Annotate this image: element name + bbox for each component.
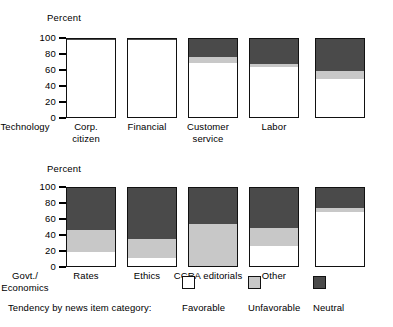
bottom-chart-segment-favorable (67, 252, 115, 266)
bottom-chart-bar (188, 187, 238, 267)
top-chart-ytick-label: 20 (45, 97, 56, 107)
bottom-chart-xlabel: Ethics (112, 270, 182, 282)
top-chart-ytick-label: 40 (45, 81, 56, 91)
top-chart-segment-unfavorable (250, 64, 298, 67)
bottom-chart-bar (66, 187, 116, 267)
bottom-chart-segment-unfavorable (189, 224, 237, 266)
bottom-chart-segment-favorable (250, 246, 298, 266)
bottom-chart-axis-title: Percent (47, 163, 81, 174)
top-chart-xlabel: Labor (239, 121, 309, 133)
bottom-chart-segment-neutral (189, 187, 237, 224)
top-chart-xlabel: Financial (112, 121, 182, 133)
bottom-chart-bars (66, 187, 386, 267)
bottom-chart-segment-unfavorable (250, 228, 298, 246)
top-chart-xlabel-line: Financial (112, 121, 182, 133)
bottom-chart-segment-unfavorable (67, 230, 115, 252)
bottom-chart-bar (315, 187, 365, 267)
bottom-chart-ytick-mark (59, 186, 66, 188)
bottom-chart-segment-unfavorable (316, 208, 364, 212)
top-chart-segment-unfavorable (316, 71, 364, 79)
legend-label-unfavorable: Unfavorable (248, 302, 300, 313)
top-chart-ytick-label: 80 (45, 49, 56, 59)
bottom-chart-segment-favorable (128, 258, 176, 266)
bottom-chart-ytick-label: 60 (45, 214, 56, 224)
top-chart-ytick-mark (59, 53, 66, 55)
bottom-chart-segment-neutral (316, 187, 364, 208)
unfavorable-swatch (248, 276, 261, 289)
top-chart-ytick-mark (59, 117, 66, 119)
top-chart-segment-unfavorable (189, 57, 237, 63)
top-chart-segment-neutral (316, 38, 364, 71)
bottom-stacked-bar-chart: Percent 020406080100 Govt./EconomicsRate… (0, 155, 393, 280)
bottom-chart-segment-neutral (67, 187, 115, 230)
top-chart-segment-favorable (128, 40, 176, 117)
bottom-chart-segment-unfavorable (128, 239, 176, 258)
bottom-chart-ytick-label: 80 (45, 198, 56, 208)
top-chart-bars (66, 38, 386, 118)
legend-label-favorable: Favorable (182, 302, 225, 313)
top-chart-y-axis: 020406080100 (44, 38, 66, 118)
top-chart-xlabel: Corp.citizen (51, 121, 121, 144)
bottom-chart-ytick-mark (59, 218, 66, 220)
bottom-chart-ytick-mark (59, 234, 66, 236)
top-chart-bar (315, 38, 365, 118)
bottom-chart-segment-neutral (128, 187, 176, 239)
top-chart-segment-neutral (67, 38, 115, 40)
top-chart-ytick-mark (59, 69, 66, 71)
bottom-chart-ytick-mark (59, 202, 66, 204)
bottom-chart-ytick-mark (59, 266, 66, 268)
top-chart-xlabel-line: Customer (173, 121, 243, 133)
top-stacked-bar-chart: Percent 020406080100 TechnologyCorp.citi… (0, 0, 393, 155)
legend-caption: Tendency by news item category: (8, 302, 152, 313)
top-chart-segment-favorable (316, 79, 364, 117)
top-chart-xlabel: Customerservice (173, 121, 243, 144)
top-chart-ytick-mark (59, 37, 66, 39)
top-chart-ytick-label: 100 (40, 33, 56, 43)
favorable-swatch (182, 276, 195, 289)
top-chart-segment-neutral (250, 38, 298, 64)
top-chart-bar (66, 38, 116, 118)
top-chart-segment-neutral (189, 38, 237, 57)
bottom-chart-ytick-label: 40 (45, 230, 56, 240)
bottom-chart-ytick-label: 20 (45, 246, 56, 256)
bottom-chart-xlabel-line: Rates (51, 270, 121, 282)
bottom-chart-segment-neutral (250, 187, 298, 228)
top-chart-ytick-label: 60 (45, 65, 56, 75)
top-chart-axis-title: Percent (47, 12, 81, 23)
top-chart-bar (127, 38, 177, 118)
legend-label-neutral: Neutral (313, 302, 344, 313)
top-chart-segment-favorable (189, 63, 237, 117)
bottom-chart-bar (127, 187, 177, 267)
top-chart-bar (188, 38, 238, 118)
top-chart-segment-favorable (250, 67, 298, 117)
top-chart-segment-favorable (67, 40, 115, 117)
chart-legend: Tendency by news item category: Favorabl… (0, 288, 393, 324)
top-chart-xlabel-line: citizen (51, 133, 121, 145)
bottom-chart-y-axis: 020406080100 (44, 187, 66, 267)
bottom-chart-bar (249, 187, 299, 267)
bottom-chart-xlabel: Rates (51, 270, 121, 282)
neutral-swatch (313, 276, 326, 289)
top-chart-bar (249, 38, 299, 118)
bottom-chart-xlabel-line: Ethics (112, 270, 182, 282)
top-chart-ytick-mark (59, 101, 66, 103)
top-chart-xlabel-line: Corp. (51, 121, 121, 133)
top-chart-segment-neutral (128, 38, 176, 40)
bottom-chart-ytick-label: 100 (40, 182, 56, 192)
top-chart-xlabel-line: Labor (239, 121, 309, 133)
top-chart-ytick-mark (59, 85, 66, 87)
top-chart-xlabel-line: service (173, 133, 243, 145)
bottom-chart-ytick-mark (59, 250, 66, 252)
bottom-chart-segment-favorable (316, 212, 364, 266)
